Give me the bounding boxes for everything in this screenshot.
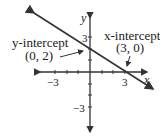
y-tick-neg3: −3 — [73, 102, 85, 114]
y-tick-3: 3 — [82, 32, 88, 44]
y-intercept-point: (0, 2) — [25, 48, 53, 63]
y-intercept-arrow — [60, 51, 83, 57]
coordinate-diagram: −3 3 3 −3 x y y-intercept (0, 2) x-inter… — [0, 0, 160, 140]
x-tick-3: 3 — [122, 76, 128, 88]
y-axis-label: y — [80, 11, 87, 25]
x-intercept-arrow — [127, 56, 130, 66]
x-tick-neg3: −3 — [47, 76, 59, 88]
x-intercept-point: (3, 0) — [116, 40, 144, 55]
